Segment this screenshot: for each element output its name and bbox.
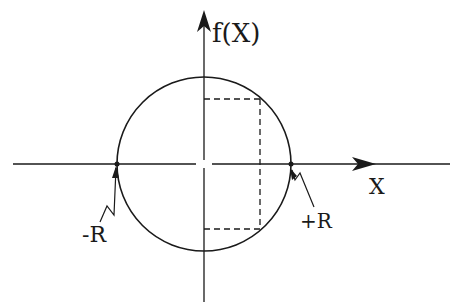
minus-r-label: -R bbox=[82, 222, 107, 247]
plus-r-label: +R bbox=[300, 209, 333, 233]
point-minus-r bbox=[115, 162, 120, 167]
circle-diagram: f(X) X -R +R bbox=[0, 0, 454, 304]
x-axis-label: X bbox=[369, 174, 385, 199]
y-axis-label: f(X) bbox=[212, 18, 260, 48]
point-plus-r bbox=[289, 162, 294, 167]
